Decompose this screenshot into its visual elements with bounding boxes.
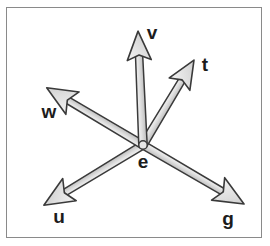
vector-w-shaft [65,97,145,149]
label-w: w [42,102,57,121]
label-u: u [53,207,65,226]
vector-u-shaft [62,142,145,197]
label-g: g [222,209,234,228]
vector-g-shaft [141,142,225,196]
label-t: t [202,55,208,74]
figure-canvas: v t w u g e [0,0,270,246]
vector-v-shaft [135,55,147,145]
origin-point-e [139,141,147,149]
label-e: e [138,152,149,171]
label-v: v [147,23,158,42]
vector-g [136,134,250,215]
vector-u [37,134,150,216]
